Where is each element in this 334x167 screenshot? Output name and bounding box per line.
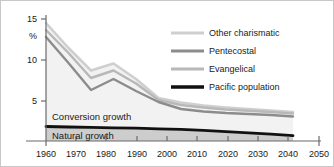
legend-item-evangelical[interactable]: Evangelical [171,64,255,74]
x-tick-label-1990: 1990 [127,149,147,159]
x-tick-label-2040: 2040 [278,149,298,159]
conversion-growth-label: Conversion growth [52,111,131,122]
y-axis-unit-label: % [29,31,37,41]
x-tick-label-1980: 1980 [96,149,116,159]
y-tick-label-5: 5 [32,96,37,106]
legend-item-other-charismatic[interactable]: Other charismatic [171,28,280,38]
x-tick-label-1960: 1960 [36,149,56,159]
legend-item-pentecostal[interactable]: Pentecostal [171,46,256,56]
chart-figure: 15 % 10 5 1960 1970 1980 1990 2000 2010 … [0,0,334,167]
x-tick-label-2050: 2050 [309,149,329,159]
legend-label-other-charismatic: Other charismatic [209,28,280,38]
legend-label-pacific-population: Pacific population [209,82,280,92]
y-tick-label-15: 15 [27,14,37,24]
x-tick-label-2030: 2030 [248,149,268,159]
legend-item-pacific-population[interactable]: Pacific population [171,82,280,92]
legend: Other charismatic Pentecostal Evangelica… [171,28,280,92]
x-tick-label-1970: 1970 [66,149,86,159]
x-tick-label-2010: 2010 [187,149,207,159]
x-tick-label-2000: 2000 [157,149,177,159]
line-chart: 15 % 10 5 1960 1970 1980 1990 2000 2010 … [1,1,334,167]
natural-growth-label: Natural growth [52,130,114,141]
legend-label-evangelical: Evangelical [209,64,255,74]
legend-label-pentecostal: Pentecostal [209,46,256,56]
x-tick-label-2020: 2020 [218,149,238,159]
y-tick-label-10: 10 [27,55,37,65]
